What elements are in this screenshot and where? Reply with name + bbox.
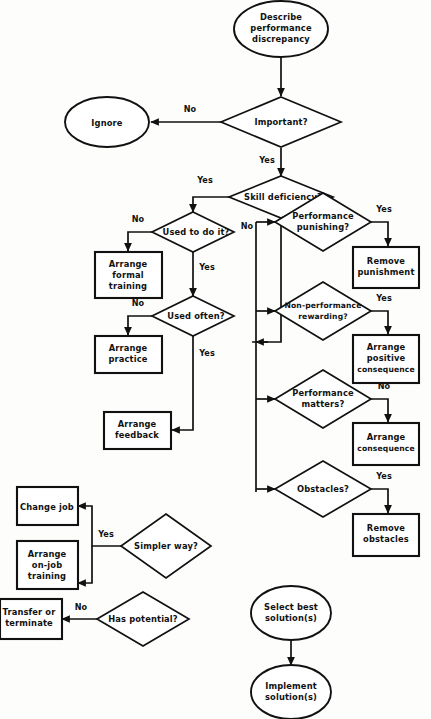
- node-arrange-consequence: Arrange consequence: [353, 423, 419, 465]
- edge-label-important-no: No: [184, 104, 197, 114]
- node-implement-solutions: Implement solution(s): [251, 665, 331, 719]
- edge-label-important-yes: Yes: [258, 155, 275, 165]
- edge-label-skill-no: No: [241, 221, 254, 231]
- node-important: Important?: [221, 97, 341, 147]
- performance-analysis-flowchart: Describe performance discrepancy Importa…: [0, 0, 431, 719]
- node-change-job: Change job: [17, 487, 78, 525]
- node-arrange-positive-line-2: positive: [367, 353, 406, 363]
- node-arrange-consequence-line-1: Arrange: [367, 432, 406, 442]
- node-has-potential-label: Has potential?: [108, 614, 178, 624]
- node-transfer-or-terminate: Transfer or terminate: [0, 599, 62, 639]
- edge-label-punishing-yes: Yes: [375, 204, 392, 214]
- edge-simpler-way-yes-to-on-job-training: [78, 546, 92, 583]
- node-arrange-positive-line-3: consequence: [357, 365, 415, 374]
- flowchart-canvas: Describe performance discrepancy Importa…: [0, 0, 431, 719]
- node-performance-matters-line-1: Performance: [292, 388, 354, 398]
- node-performance-matters-line-2: matters?: [302, 399, 345, 409]
- node-remove-punishment-line-2: punishment: [357, 267, 414, 277]
- node-select-best-solutions: Select best solution(s): [251, 586, 331, 640]
- node-non-performance-rewarding-line-1: Non-performance: [284, 301, 361, 310]
- node-ignore: Ignore: [65, 97, 149, 147]
- node-describe-line-1: Describe: [260, 12, 302, 22]
- edge-label-obstacles-yes: Yes: [375, 471, 392, 481]
- node-arrange-practice-line-2: practice: [108, 354, 147, 364]
- node-arrange-positive-line-1: Arrange: [367, 342, 406, 352]
- node-arrange-on-job-training: Arrange on-job training: [17, 541, 78, 589]
- node-important-label: Important?: [254, 117, 307, 127]
- node-change-job-label: Change job: [20, 502, 74, 512]
- edge-label-simpler-way-yes: Yes: [97, 529, 114, 539]
- node-arrange-feedback: Arrange feedback: [104, 412, 171, 449]
- node-describe-line-2: performance: [250, 23, 312, 33]
- node-transfer-line-2: terminate: [5, 618, 53, 628]
- edge-label-skill-yes: Yes: [196, 175, 213, 185]
- node-used-often: Used often?: [152, 296, 234, 336]
- edge-used-to-do-it-no-to-formal-training: [128, 232, 152, 251]
- node-performance-punishing-line-1: Performance: [292, 211, 354, 221]
- node-select-best-line-2: solution(s): [265, 613, 317, 623]
- node-remove-obstacles-line-2: obstacles: [363, 534, 409, 544]
- node-select-best-line-1: Select best: [264, 602, 318, 612]
- node-formal-training-line-2: formal: [112, 270, 143, 280]
- edge-skill-yes-to-used-to-do-it: [193, 197, 229, 212]
- edge-used-often-yes-to-arrange-feedback: [172, 336, 193, 430]
- node-arrange-positive-consequence: Arrange positive consequence: [353, 335, 419, 383]
- edge-obstacles-yes-to-remove-obstacles: [371, 489, 388, 513]
- node-arrange-feedback-line-2: feedback: [115, 430, 159, 440]
- edge-rewarding-yes-to-arrange-positive: [371, 311, 388, 334]
- node-arrange-practice-line-1: Arrange: [109, 343, 148, 353]
- edge-label-used-often-no: No: [132, 298, 145, 308]
- edge-label-used-to-do-it-no: No: [132, 214, 145, 224]
- node-implement-line-2: solution(s): [265, 692, 317, 702]
- node-used-to-do-it: Used to do it?: [152, 212, 234, 252]
- node-arrange-practice: Arrange practice: [95, 336, 162, 373]
- node-on-job-training-line-2: on-job: [32, 560, 62, 570]
- node-obstacles-label: Obstacles?: [297, 484, 349, 494]
- edge-simpler-way-yes-to-change-job: [78, 506, 121, 546]
- node-simpler-way-label: Simpler way?: [134, 541, 198, 551]
- node-formal-training-line-3: training: [109, 281, 147, 291]
- node-transfer-line-1: Transfer or: [3, 607, 57, 617]
- node-describe-performance-discrepancy: Describe performance discrepancy: [234, 1, 328, 57]
- edge-used-often-no-to-arrange-practice: [128, 316, 152, 335]
- node-obstacles: Obstacles?: [275, 461, 371, 517]
- edge-label-has-potential-no: No: [75, 602, 88, 612]
- node-describe-line-3: discrepancy: [252, 34, 310, 44]
- node-used-often-label: Used often?: [167, 311, 224, 321]
- node-implement-line-1: Implement: [265, 681, 317, 691]
- node-arrange-consequence-line-2: consequence: [357, 444, 415, 453]
- node-simpler-way: Simpler way?: [121, 514, 211, 578]
- node-arrange-formal-training: Arrange formal training: [95, 252, 162, 298]
- node-formal-training-line-1: Arrange: [109, 259, 148, 269]
- node-non-performance-rewarding: Non-performance rewarding?: [275, 282, 371, 340]
- edge-label-used-often-yes: Yes: [198, 348, 215, 358]
- node-used-to-do-it-label: Used to do it?: [163, 227, 230, 237]
- node-remove-obstacles: Remove obstacles: [353, 514, 419, 556]
- node-performance-punishing-line-2: punishing?: [297, 222, 349, 232]
- node-remove-obstacles-line-1: Remove: [367, 523, 406, 533]
- edge-label-rewarding-yes: Yes: [375, 293, 392, 303]
- node-on-job-training-line-1: Arrange: [28, 549, 67, 559]
- node-has-potential: Has potential?: [97, 592, 189, 646]
- edge-label-used-to-do-it-yes: Yes: [198, 262, 215, 272]
- node-non-performance-rewarding-line-2: rewarding?: [298, 312, 348, 321]
- edge-punishing-yes-to-remove-punishment: [371, 222, 388, 246]
- edge-label-matters-no: No: [378, 381, 391, 391]
- node-remove-punishment-line-1: Remove: [367, 256, 406, 266]
- edge-matters-no-to-arrange-consequence: [371, 399, 388, 422]
- node-on-job-training-line-3: training: [28, 571, 66, 581]
- node-remove-punishment: Remove punishment: [353, 247, 419, 288]
- node-arrange-feedback-line-1: Arrange: [118, 419, 157, 429]
- node-ignore-label: Ignore: [91, 118, 122, 128]
